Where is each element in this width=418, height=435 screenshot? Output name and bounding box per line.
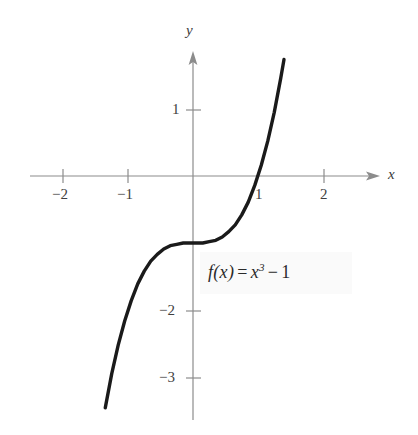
x-tick-label-2: 2 — [320, 186, 328, 203]
y-axis-label: y — [186, 22, 193, 39]
y-tick-label-neg3: −3 — [159, 369, 175, 386]
equation-base: x — [251, 262, 259, 282]
x-tick-label-1: 1 — [255, 186, 263, 203]
x-axis — [30, 172, 380, 181]
y-tick-label-1: 1 — [172, 101, 180, 118]
plot-canvas — [0, 0, 418, 435]
equation-exponent: 3 — [259, 261, 265, 273]
y-axis — [189, 51, 198, 420]
equation-equals: = — [234, 262, 250, 282]
function-curve — [105, 59, 284, 407]
equation-constant: 1 — [281, 262, 290, 282]
equation-function-name: f(x) — [208, 262, 234, 282]
graph-figure: x y −2 −1 1 2 1 −2 −3 f(x)=x3−1 — [0, 0, 418, 435]
function-equation-label: f(x)=x3−1 — [208, 262, 291, 283]
x-axis-label: x — [388, 166, 395, 183]
equation-minus: − — [265, 262, 281, 282]
x-tick-label-neg1: −1 — [117, 186, 133, 203]
x-tick-label-neg2: −2 — [52, 186, 68, 203]
y-tick-label-neg2: −2 — [159, 302, 175, 319]
